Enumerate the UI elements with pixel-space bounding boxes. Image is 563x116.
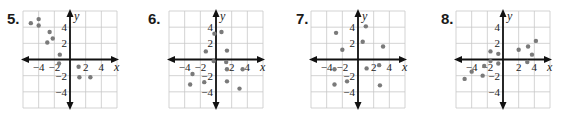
data-point: [240, 67, 244, 71]
plot-6-label: 6.: [148, 10, 161, 27]
plot-8-label: 8.: [441, 10, 454, 27]
data-point: [29, 21, 33, 25]
data-point: [47, 30, 51, 34]
y-axis-label: y: [73, 9, 80, 23]
x-tick-label: 2: [371, 61, 377, 73]
data-point: [36, 17, 40, 21]
data-point: [57, 61, 61, 65]
x-tick-label: −4: [179, 61, 191, 73]
y-axis-up-arrow-icon: [67, 9, 74, 17]
x-tick-label: 4: [245, 61, 251, 73]
x-axis-label: x: [546, 60, 553, 74]
data-point: [332, 82, 336, 86]
y-tick-label: 4: [495, 21, 501, 33]
data-point: [77, 75, 81, 79]
scatter-plot-5: −4−22442−2−4xy: [23, 0, 119, 116]
x-axis-label: x: [259, 60, 266, 74]
data-point: [496, 52, 500, 56]
data-point: [482, 64, 486, 68]
data-point: [364, 66, 368, 70]
data-point: [381, 44, 385, 48]
data-point: [364, 24, 368, 28]
x-axis-left-arrow-icon: [309, 56, 317, 63]
y-tick-label: −4: [55, 86, 67, 98]
y-axis-down-arrow-icon: [213, 102, 220, 110]
x-tick-label: 4: [387, 61, 393, 73]
x-axis-left-arrow-icon: [454, 56, 462, 63]
y-axis-label: y: [361, 9, 368, 23]
data-point: [526, 44, 530, 48]
data-point: [225, 67, 229, 71]
data-point: [516, 48, 520, 52]
data-point: [488, 49, 492, 53]
data-point: [88, 75, 92, 79]
y-tick-label: 4: [350, 21, 356, 33]
data-point: [36, 23, 40, 27]
plot-7-label: 7.: [296, 10, 309, 27]
data-point: [51, 36, 55, 40]
y-tick-label: 2: [495, 37, 501, 49]
data-point: [530, 52, 534, 56]
data-point: [58, 52, 62, 56]
plot-5-label: 5.: [7, 10, 20, 27]
data-point: [219, 30, 223, 34]
x-tick-label: 4: [99, 61, 105, 73]
x-tick-label: 2: [83, 61, 89, 73]
x-tick-label: 2: [229, 61, 235, 73]
data-point: [188, 82, 192, 86]
data-point: [462, 77, 466, 81]
data-point: [469, 69, 473, 73]
y-axis-up-arrow-icon: [355, 9, 362, 17]
data-point: [225, 48, 229, 52]
y-tick-label: −2: [488, 70, 500, 82]
x-tick-label: 2: [516, 61, 522, 73]
x-axis-left-arrow-icon: [167, 56, 175, 63]
y-axis-label: y: [506, 9, 513, 23]
data-point: [332, 67, 336, 71]
scatter-plot-8: −4−22442−2−4xy: [456, 0, 552, 116]
data-point: [340, 48, 344, 52]
y-axis-label: y: [219, 9, 226, 23]
data-point: [76, 65, 80, 69]
data-point: [237, 86, 241, 90]
x-axis-label: x: [401, 60, 408, 74]
y-tick-label: −2: [343, 70, 355, 82]
x-tick-label: 4: [532, 61, 538, 73]
y-tick-label: 4: [208, 21, 214, 33]
y-axis-up-arrow-icon: [500, 9, 507, 17]
y-tick-label: 2: [350, 37, 356, 49]
x-tick-label: −4: [321, 61, 333, 73]
y-tick-label: 4: [62, 21, 68, 33]
data-point: [212, 31, 216, 35]
y-tick-label: −2: [55, 70, 67, 82]
y-tick-label: 2: [62, 37, 68, 49]
y-tick-label: 2: [208, 37, 214, 49]
y-tick-label: −4: [201, 86, 213, 98]
x-axis-label: x: [113, 60, 120, 74]
data-point: [488, 59, 492, 63]
data-point: [377, 63, 381, 67]
data-point: [224, 60, 228, 64]
scatter-plot-6: −4−22442−2−4xy: [169, 0, 265, 116]
data-point: [45, 40, 49, 44]
y-axis-up-arrow-icon: [213, 9, 220, 17]
data-point: [534, 39, 538, 43]
data-point: [225, 79, 229, 83]
y-tick-label: −2: [201, 70, 213, 82]
x-axis-left-arrow-icon: [21, 56, 29, 63]
data-point: [202, 80, 206, 84]
data-point: [480, 73, 484, 77]
data-point: [334, 31, 338, 35]
data-point: [211, 59, 215, 63]
data-point: [204, 49, 208, 53]
data-point: [378, 83, 382, 87]
data-point: [525, 60, 529, 64]
data-point: [345, 79, 349, 83]
y-axis-down-arrow-icon: [67, 102, 74, 110]
y-axis-down-arrow-icon: [355, 102, 362, 110]
x-tick-label: −4: [33, 61, 45, 73]
data-point: [361, 40, 365, 44]
y-tick-label: −4: [343, 86, 355, 98]
y-tick-label: −4: [488, 86, 500, 98]
scatter-plot-7: −4−22442−2−4xy: [311, 0, 407, 116]
